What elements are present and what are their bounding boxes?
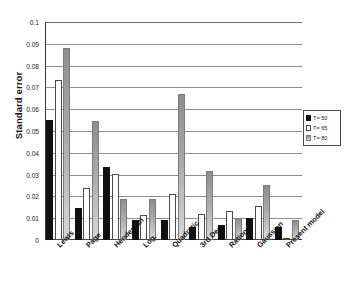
bar	[178, 94, 185, 240]
bar-group	[132, 22, 156, 240]
y-tick-label: 0.1	[5, 19, 39, 26]
bar	[255, 206, 262, 240]
legend-swatch-t50	[306, 115, 311, 121]
bar-group	[46, 22, 70, 240]
bar-group	[246, 22, 270, 240]
bar	[112, 174, 119, 240]
bar-group	[103, 22, 127, 240]
bar-group	[161, 22, 185, 240]
legend-label-t80: T= 80	[313, 135, 327, 141]
y-tick-label: 0.03	[5, 172, 39, 179]
bar	[75, 208, 82, 240]
bar	[169, 194, 176, 240]
y-tick-label: 0.01	[5, 215, 39, 222]
y-tick-label: 0.09	[5, 41, 39, 48]
bar	[92, 121, 99, 240]
legend-label-t65: T= 65	[313, 125, 327, 131]
legend-swatch-t65	[306, 125, 311, 131]
bar	[103, 167, 110, 240]
bar-group	[275, 22, 299, 240]
bar-group	[218, 22, 242, 240]
legend-item-t80: T= 80	[306, 133, 339, 143]
bar-group	[189, 22, 213, 240]
legend-item-t65: T= 65	[306, 123, 339, 133]
bar-group	[75, 22, 99, 240]
bar-groups	[45, 22, 302, 240]
bar	[226, 211, 233, 240]
y-axis-title: Standard error	[13, 51, 24, 161]
y-tick-label: 0	[5, 237, 39, 244]
bar	[161, 220, 168, 240]
chart-legend: T= 50 T= 65 T= 80	[303, 110, 341, 146]
y-tick-label: 0.02	[5, 193, 39, 200]
bar-chart: Standard error 00.010.020.030.040.050.06…	[0, 0, 344, 304]
bar	[55, 80, 62, 240]
bar	[46, 120, 53, 240]
x-axis-category-labels: LewisPageHendersonLog.Quadratic3rd Deg.R…	[45, 243, 302, 304]
legend-item-t50: T= 50	[306, 113, 339, 123]
bar	[63, 48, 70, 240]
legend-label-t50: T= 50	[313, 115, 327, 121]
bar	[83, 188, 90, 240]
legend-swatch-t80	[306, 135, 311, 141]
